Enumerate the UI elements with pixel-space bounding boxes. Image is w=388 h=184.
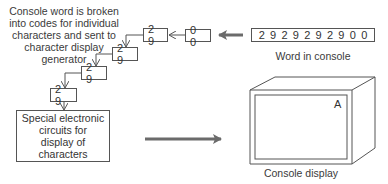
- digit: 2: [259, 29, 265, 41]
- description-line: into codes for individual: [4, 17, 124, 29]
- console-word-box: 2 9 2 9 2 9 2 9 0 0: [251, 28, 375, 42]
- generator-line: characters: [22, 148, 104, 160]
- description-line: character display: [4, 41, 124, 53]
- monitor-icon: [250, 77, 375, 164]
- digit: 2: [304, 29, 310, 41]
- digit: 0: [350, 29, 356, 41]
- console-display-label: Console display: [250, 167, 352, 179]
- generator-line: display of: [22, 136, 104, 148]
- digit: 2: [281, 29, 287, 41]
- generator-line: Special electronic: [22, 112, 104, 124]
- digit: 9: [338, 29, 344, 41]
- code-box-29: 2 9: [112, 47, 138, 61]
- code-box-29: 2 9: [50, 88, 77, 102]
- digit: 0: [361, 29, 367, 41]
- code-box-29: 2 9: [143, 28, 168, 42]
- console-word-label: Word in console: [251, 50, 375, 62]
- digit: 9: [270, 29, 276, 41]
- digit: 9: [316, 29, 322, 41]
- code-box-00: 0 0: [185, 29, 211, 42]
- description-line: Console word is broken: [4, 5, 124, 17]
- display-character: A: [334, 98, 341, 110]
- description-line: characters and sent to: [4, 29, 124, 41]
- code-box-29: 2 9: [81, 66, 107, 80]
- process-description: Console word is broken into codes for in…: [4, 5, 124, 65]
- digit: 2: [327, 29, 333, 41]
- digit: 9: [293, 29, 299, 41]
- display-generator-box: Special electronic circuits for display …: [16, 110, 110, 162]
- generator-line: circuits for: [22, 124, 104, 136]
- description-line: generator: [4, 53, 124, 65]
